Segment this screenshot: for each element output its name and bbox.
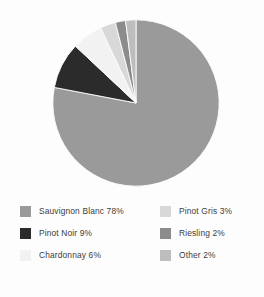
chart-legend: Sauvignon Blanc 78%Pinot Noir 9%Chardonn… [0,200,264,280]
legend-item-label: Chardonnay 6% [39,250,101,261]
chart-plot-area [0,0,264,195]
legend-swatch [20,250,31,261]
legend-column-right: Pinot Gris 3%Riesling 2%Other 2% [152,200,264,280]
legend-item[interactable]: Pinot Gris 3% [160,200,264,222]
pie-chart-svg [52,19,220,187]
legend-item[interactable]: Chardonnay 6% [20,244,152,266]
legend-column-left: Sauvignon Blanc 78%Pinot Noir 9%Chardonn… [0,200,152,280]
legend-item-label: Sauvignon Blanc 78% [39,206,124,217]
legend-swatch [160,228,171,239]
legend-swatch [20,228,31,239]
pie-chart-figure: Sauvignon Blanc 78%Pinot Noir 9%Chardonn… [0,0,264,297]
legend-item-label: Other 2% [179,250,216,261]
legend-item[interactable]: Riesling 2% [160,222,264,244]
legend-swatch [20,206,31,217]
pie-slice-group [53,20,219,186]
legend-item-label: Pinot Noir 9% [39,228,92,239]
legend-item[interactable]: Pinot Noir 9% [20,222,152,244]
legend-swatch [160,206,171,217]
legend-item[interactable]: Sauvignon Blanc 78% [20,200,152,222]
legend-item-label: Riesling 2% [179,228,225,239]
legend-swatch [160,250,171,261]
legend-item[interactable]: Other 2% [160,244,264,266]
legend-item-label: Pinot Gris 3% [179,206,232,217]
